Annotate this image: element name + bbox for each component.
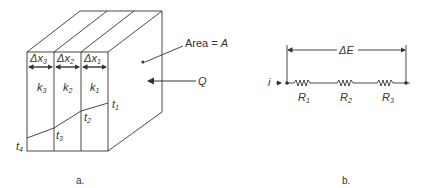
potential-difference-label: ΔE	[338, 44, 354, 56]
conductivity-label-1: k1	[90, 81, 100, 94]
thickness-label-1: Δx1	[83, 52, 101, 65]
area-label: Area = A	[185, 37, 228, 49]
area-point-marker	[141, 60, 144, 63]
temperature-label-2: t2	[84, 111, 91, 124]
node-right	[404, 81, 408, 85]
resistor-label-2: R2	[340, 91, 352, 104]
temperature-label-4: t4	[16, 140, 23, 153]
node-left	[285, 81, 289, 85]
resistor-label-3: R3	[382, 91, 394, 104]
temperature-label-1: t1	[112, 98, 119, 111]
thermal-resistance-diagram: Δx3 Δx2 Δx1 k3 k2 k1 t1 t2 t3 t4 Area = …	[0, 0, 430, 188]
thickness-label-3: Δx3	[29, 52, 47, 65]
heat-flow-label: Q	[198, 75, 207, 87]
resistor-label-1: R1	[298, 91, 310, 104]
current-label: i	[268, 76, 271, 88]
caption-a: a.	[76, 175, 84, 186]
conductivity-label-3: k3	[37, 81, 47, 94]
caption-b: b.	[342, 175, 350, 186]
conductivity-label-2: k2	[63, 81, 73, 94]
temperature-label-3: t3	[56, 129, 63, 142]
composite-wall	[27, 11, 196, 151]
thickness-label-2: Δx2	[56, 52, 74, 65]
